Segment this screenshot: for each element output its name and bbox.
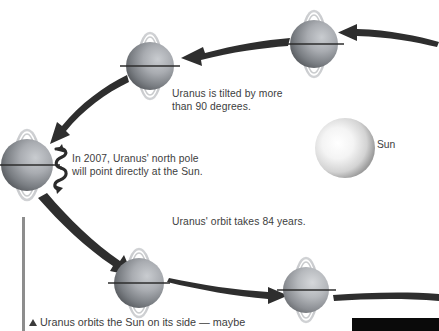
sun-body — [315, 118, 375, 178]
rotation-spiral-arrow — [55, 144, 66, 194]
caption-tilt: Uranus is tilted by more than 90 degrees… — [172, 87, 283, 113]
orbit-arrow-6 — [333, 292, 439, 301]
orbit-arrow-3 — [50, 75, 129, 144]
orbit-arrow-1 — [338, 24, 439, 47]
planet-uranus-top-left — [120, 33, 180, 99]
left-vertical-rule — [22, 217, 25, 331]
triangle-marker-icon — [29, 319, 37, 326]
planet-uranus-bottom-right — [277, 258, 336, 322]
orbit-arrow-5 — [167, 278, 288, 304]
sun-label: Sun — [377, 139, 395, 150]
orbit-arrow-2 — [181, 38, 290, 66]
black-bar-block — [352, 318, 439, 331]
figure-canvas: Uranus is tilted by more than 90 degrees… — [0, 0, 439, 331]
uranus-orbit-illustration — [0, 0, 439, 331]
bottom-caption: Uranus orbits the Sun on its side — mayb… — [40, 315, 245, 329]
planet-uranus-top-right — [284, 11, 344, 77]
orbit-arrow-4 — [38, 193, 133, 276]
rotation-arrow-head-2 — [56, 186, 64, 195]
caption-orbit-period: Uranus' orbit takes 84 years. — [172, 215, 306, 228]
planet-uranus-left — [0, 130, 60, 200]
caption-north-pole: In 2007, Uranus' north pole will point d… — [72, 152, 203, 178]
